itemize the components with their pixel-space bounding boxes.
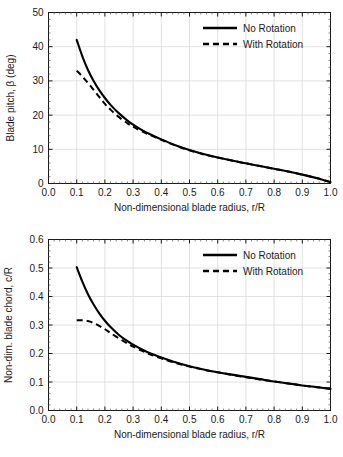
series-group <box>77 40 331 182</box>
y-axis-title: Non-dim. blade chord, c/R <box>3 267 14 383</box>
x-tick-label: 0.6 <box>211 414 225 425</box>
legend-label-no-rotation: No Rotation <box>243 23 296 34</box>
series-group <box>77 267 331 389</box>
legend-label-no-rotation: No Rotation <box>243 250 296 261</box>
y-tick-label: 0.2 <box>30 348 44 359</box>
x-tick-label: 0.0 <box>42 187 56 198</box>
y-tick-label: 20 <box>32 110 44 121</box>
legend-label-with-rotation: With Rotation <box>243 266 303 277</box>
y-tick-label: 0.6 <box>30 234 44 245</box>
chart-panel-blade-pitch: 0.00.10.20.30.40.50.60.70.80.91.00102030… <box>0 0 343 228</box>
y-tick-label: 10 <box>32 144 44 155</box>
x-tick-label: 0.2 <box>98 414 112 425</box>
x-tick-label: 0.7 <box>239 187 253 198</box>
y-tick-label: 50 <box>32 7 44 18</box>
x-tick-label: 0.4 <box>154 187 168 198</box>
x-tick-label: 0.9 <box>295 414 309 425</box>
x-tick-label: 0.9 <box>295 187 309 198</box>
figure-root: 0.00.10.20.30.40.50.60.70.80.91.00102030… <box>0 0 343 457</box>
x-axis-title: Non-dimensional blade radius, r/R <box>114 429 265 440</box>
y-tick-label: 0.5 <box>30 263 44 274</box>
y-tick-label: 0.1 <box>30 377 44 388</box>
x-tick-label: 0.2 <box>98 187 112 198</box>
x-tick-label: 0.1 <box>70 414 84 425</box>
x-tick-label: 0.5 <box>183 414 197 425</box>
series-with-rotation <box>77 71 331 182</box>
x-tick-label: 0.0 <box>42 414 56 425</box>
x-tick-label: 0.3 <box>126 187 140 198</box>
y-tick-label: 30 <box>32 75 44 86</box>
x-tick-label: 0.3 <box>126 414 140 425</box>
series-no-rotation <box>77 40 331 182</box>
x-axis-title: Non-dimensional blade radius, r/R <box>114 202 265 213</box>
y-tick-label: 40 <box>32 41 44 52</box>
x-tick-label: 0.4 <box>154 414 168 425</box>
y-tick-label: 0.4 <box>30 291 44 302</box>
series-no-rotation <box>77 267 331 389</box>
tick-labels: 0.00.10.20.30.40.50.60.70.80.91.00102030… <box>32 7 338 198</box>
blade-chord-chart: 0.00.10.20.30.40.50.60.70.80.91.00.00.10… <box>0 228 343 457</box>
x-tick-label: 1.0 <box>324 414 338 425</box>
x-tick-label: 0.1 <box>70 187 84 198</box>
blade-pitch-chart: 0.00.10.20.30.40.50.60.70.80.91.00102030… <box>0 0 343 228</box>
y-axis-title: Blade pitch, β (deg) <box>5 55 16 142</box>
x-tick-label: 0.6 <box>211 187 225 198</box>
y-tick-label: 0 <box>38 178 44 189</box>
y-tick-label: 0.3 <box>30 320 44 331</box>
x-tick-label: 1.0 <box>324 187 338 198</box>
tick-labels: 0.00.10.20.30.40.50.60.70.80.91.00.00.10… <box>30 234 338 425</box>
y-tick-label: 0.0 <box>30 405 44 416</box>
x-tick-label: 0.7 <box>239 414 253 425</box>
x-tick-label: 0.8 <box>267 187 281 198</box>
x-tick-label: 0.5 <box>183 187 197 198</box>
chart-panel-blade-chord: 0.00.10.20.30.40.50.60.70.80.91.00.00.10… <box>0 228 343 457</box>
legend-label-with-rotation: With Rotation <box>243 39 303 50</box>
x-tick-label: 0.8 <box>267 414 281 425</box>
